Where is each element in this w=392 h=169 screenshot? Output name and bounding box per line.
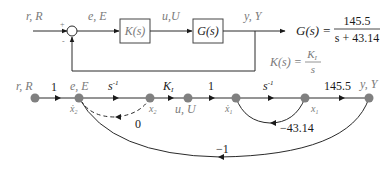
- node-x1dot: [232, 94, 241, 103]
- node-u-label: u, U: [175, 102, 197, 116]
- node-x2: [146, 94, 155, 103]
- gain-x1-y: 145.5: [324, 79, 351, 93]
- node-x1: [301, 94, 310, 103]
- summing-junction: [67, 26, 77, 36]
- feedback-path: [72, 31, 255, 71]
- svg-text:s: s: [311, 63, 315, 75]
- input-label: r, R: [26, 9, 43, 23]
- sum-minus-sign: -: [62, 37, 65, 46]
- gain-e-x2: s-1: [108, 79, 119, 93]
- node-e: [75, 94, 84, 103]
- error-label: e, E: [88, 9, 107, 23]
- gain-y-e: −1: [216, 142, 229, 156]
- plant-block-label: G(s): [197, 24, 218, 38]
- output-label: y, Y: [243, 9, 263, 23]
- svg-text:145.5: 145.5: [344, 14, 371, 28]
- node-y: [365, 94, 374, 103]
- gain-r-e: 1: [51, 80, 57, 94]
- gain-x2-u: KI: [162, 79, 174, 94]
- node-y-label: y, Y: [359, 77, 379, 91]
- control-diagram: r, R + - e, E K(s) u,U G(s) y, Y G(s) = …: [0, 0, 392, 169]
- gain-x2-e: 0: [135, 117, 141, 131]
- node-r-label: r, R: [16, 79, 33, 93]
- control-label: u,U: [162, 9, 181, 23]
- gain-x1dot-x1: s-1: [263, 79, 274, 93]
- block-diagram: r, R + - e, E K(s) u,U G(s) y, Y G(s) = …: [26, 9, 380, 75]
- gain-x1-x1dot: −43.14: [280, 121, 314, 135]
- node-r: [31, 94, 40, 103]
- svg-text:K(s) =: K(s) =: [269, 55, 302, 69]
- branch-x1-x1dot-loop: [236, 98, 305, 123]
- signal-flow-graph: r, R e, E ẋ2 x2 u, U ẋ1 x1 y, Y 1 s-1 KI…: [16, 77, 379, 160]
- sum-plus-sign: +: [60, 20, 65, 29]
- controller-block-label: K(s): [124, 24, 146, 38]
- svg-text:G(s) =: G(s) =: [296, 23, 331, 38]
- node-x1-label: x1: [310, 103, 318, 115]
- node-e-label: e, E: [70, 79, 89, 93]
- node-x1dot-label: ẋ1: [224, 103, 232, 115]
- controller-transfer-function: K(s) = KI s: [269, 48, 321, 75]
- node-e-state-label: ẋ2: [69, 103, 77, 115]
- plant-transfer-function: G(s) = 145.5 s + 43.14: [296, 14, 380, 45]
- svg-text:KI: KI: [306, 48, 317, 62]
- branch-x2-e-dashed: [82, 98, 150, 117]
- svg-text:s + 43.14: s + 43.14: [335, 31, 379, 45]
- gain-u-x1dot: 1: [208, 79, 214, 93]
- node-x2-label: x2: [148, 103, 156, 115]
